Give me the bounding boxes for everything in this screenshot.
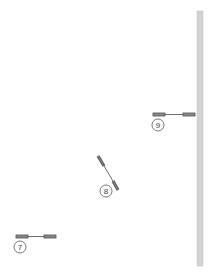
component-9-left-bar [153,113,165,116]
component-9-right-bar [183,113,195,116]
component-7-right-bar [44,235,56,238]
callout-label-9: 9 [156,121,161,130]
callout-8: 8 [100,185,112,197]
component-8-upper-bar-fill [98,157,103,166]
callout-7: 7 [14,241,26,253]
vertical-rail [197,11,203,266]
component-8-wire [104,166,113,181]
callout-label-7: 7 [18,243,23,252]
component-7: 7 [14,235,56,253]
component-9: 9 [152,113,195,131]
callout-label-8: 8 [104,187,109,196]
callout-9: 9 [152,119,164,131]
parts-diagram: 7 8 9 [0,0,216,280]
component-8: 8 [98,156,118,197]
component-7-left-bar [16,235,28,238]
